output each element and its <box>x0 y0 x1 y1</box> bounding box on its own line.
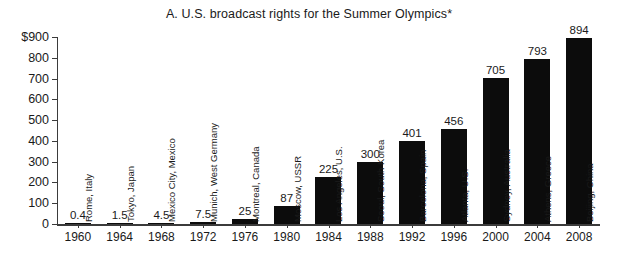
x-axis-tick <box>496 224 497 228</box>
x-axis-tick-label: 1960 <box>65 230 92 244</box>
chart-figure: A. U.S. broadcast rights for the Summer … <box>0 0 618 258</box>
bar-group: 705Sydney, Australia <box>475 37 517 224</box>
bar-group: 456Atlanta, U.S. <box>433 37 475 224</box>
bar-city-label: Los Angeles, U.S. <box>333 146 344 222</box>
y-axis-tick-label: 100 <box>28 196 49 210</box>
x-axis-tick-label: 1976 <box>232 230 259 244</box>
plot-area: $9008007006005004003002001000 0.4Rome, I… <box>57 37 600 224</box>
y-axis-tick-label: 300 <box>28 155 49 169</box>
y-axis-tick-label: 700 <box>28 72 49 86</box>
bar-city-label: Seoul, South Korea <box>375 140 386 222</box>
bar-value-label: 705 <box>486 64 505 76</box>
bar-group: 401Barcelona, Spain <box>391 37 433 224</box>
x-axis-tick-label: 1980 <box>273 230 300 244</box>
chart-title: A. U.S. broadcast rights for the Summer … <box>0 7 618 21</box>
y-axis-tick-label: 0 <box>42 217 49 231</box>
x-axis-tick-label: 1964 <box>106 230 133 244</box>
x-axis-tick <box>161 224 162 228</box>
x-axis-tick <box>120 224 121 228</box>
x-axis-tick <box>287 224 288 228</box>
x-axis-tick-label: 1996 <box>440 230 467 244</box>
bar-city-label: Sydney, Australia <box>501 149 512 222</box>
bar-city-label: Athens, Greece <box>542 156 553 222</box>
y-axis-tick-label: 200 <box>28 175 49 189</box>
x-axis-tick <box>203 224 204 228</box>
x-axis-tick-label: 1984 <box>315 230 342 244</box>
bar-city-label: Montreal, Canada <box>250 146 261 222</box>
x-axis-tick <box>329 224 330 228</box>
bar-group: 894Beijing, China <box>558 37 600 224</box>
x-axis-tick-label: 2000 <box>482 230 509 244</box>
y-axis-tick-label: 500 <box>28 113 49 127</box>
bar-city-label: Rome, Italy <box>83 174 94 222</box>
x-axis-tick-label: 1992 <box>399 230 426 244</box>
bar-group: 225Los Angeles, U.S. <box>308 37 350 224</box>
bar-group: 300Seoul, South Korea <box>349 37 391 224</box>
bar-group: 0.4Rome, Italy <box>57 37 99 224</box>
bar-group: 25Montreal, Canada <box>224 37 266 224</box>
x-axis-tick <box>370 224 371 228</box>
x-axis-tick <box>245 224 246 228</box>
x-axis-tick <box>412 224 413 228</box>
x-axis-tick-label: 2008 <box>566 230 593 244</box>
bar-group: 7.5Munich, West Germany <box>182 37 224 224</box>
bar-group: 4.5Mexico City, Mexico <box>141 37 183 224</box>
bar-value-label: 793 <box>528 45 547 57</box>
bar-city-label: Atlanta, U.S. <box>459 169 470 222</box>
bar-value-label: 894 <box>570 24 589 36</box>
y-axis-tick <box>52 224 58 225</box>
x-axis-tick <box>579 224 580 228</box>
y-axis-tick-label: 600 <box>28 92 49 106</box>
x-axis-tick-label: 1968 <box>148 230 175 244</box>
y-axis-tick-label: 400 <box>28 134 49 148</box>
bar-city-label: Barcelona, Spain <box>417 150 428 222</box>
bar-group: 87Moscow, USSR <box>266 37 308 224</box>
bar-value-label: 456 <box>444 115 463 127</box>
y-axis-tick-label: 800 <box>28 51 49 65</box>
bar-group: 793Athens, Greece <box>516 37 558 224</box>
x-axis-tick-label: 1988 <box>357 230 384 244</box>
bar-city-label: Moscow, USSR <box>292 156 303 222</box>
x-axis-tick <box>454 224 455 228</box>
x-axis-tick <box>78 224 79 228</box>
x-axis-tick <box>537 224 538 228</box>
x-axis-tick-label: 1972 <box>190 230 217 244</box>
bar-value-label: 401 <box>402 127 421 139</box>
bar-city-label: Beijing, China <box>584 163 595 222</box>
bar-city-label: Munich, West Germany <box>208 123 219 222</box>
bar-city-label: Mexico City, Mexico <box>166 138 177 222</box>
bar-group: 1.5Tokyo, Japan <box>99 37 141 224</box>
y-axis-tick-label: $900 <box>21 30 49 44</box>
x-axis-tick-label: 2004 <box>524 230 551 244</box>
bar-city-label: Tokyo, Japan <box>125 166 136 222</box>
